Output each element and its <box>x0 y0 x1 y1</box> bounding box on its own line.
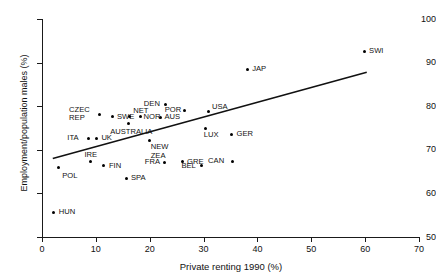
data-point-usa <box>207 110 210 113</box>
y-tick-label-90: 90 <box>402 58 436 67</box>
data-point-australia <box>127 122 130 125</box>
data-point-can <box>231 160 234 163</box>
y-tick-label-60: 60 <box>402 189 436 198</box>
data-point-hun <box>52 211 55 214</box>
plot-area: 5060708090100010203040506070 POLHUNITACZ… <box>0 0 436 279</box>
data-point-fin <box>102 164 105 167</box>
point-label-ire: IRE <box>84 151 97 159</box>
data-point-pol <box>57 166 60 169</box>
data-point-por <box>183 109 186 112</box>
y-tick-80 <box>37 106 42 107</box>
x-axis-line <box>42 237 419 238</box>
data-point-ita <box>87 137 90 140</box>
point-label-den: DEN <box>144 100 160 108</box>
point-label-fin: FIN <box>109 162 121 170</box>
scatter-chart: 5060708090100010203040506070 POLHUNITACZ… <box>0 0 436 279</box>
x-tick-label-20: 20 <box>135 245 165 254</box>
point-label-fra: FRA <box>145 158 160 166</box>
x-tick-20 <box>150 237 151 242</box>
point-label-ita: ITA <box>67 134 78 142</box>
data-point-jap <box>246 68 249 71</box>
point-label-jap: JAP <box>252 65 266 73</box>
data-point-czec-rep <box>98 113 101 116</box>
point-label-czec-rep: CZEC REP <box>69 106 90 123</box>
point-label-lux: LUX <box>204 131 219 139</box>
x-tick-70 <box>419 237 420 242</box>
x-tick-0 <box>42 237 43 242</box>
point-label-bel: BEL <box>181 162 195 170</box>
point-label-swe: SWE <box>117 113 134 121</box>
x-tick-label-60: 60 <box>350 245 380 254</box>
point-label-nor: NOR <box>144 113 161 121</box>
data-point-uk <box>95 137 98 140</box>
point-label-swi: SWI <box>369 47 383 55</box>
point-label-spa: SPA <box>131 174 146 182</box>
y-tick-70 <box>37 150 42 151</box>
data-point-net <box>128 115 131 118</box>
data-point-swe <box>111 115 114 118</box>
point-label-usa: USA <box>212 103 228 111</box>
x-tick-label-40: 40 <box>242 245 272 254</box>
data-point-fra <box>163 161 166 164</box>
data-point-ire <box>89 160 92 163</box>
x-tick-30 <box>204 237 205 242</box>
point-label-can: CAN <box>208 157 224 165</box>
y-tick-90 <box>37 63 42 64</box>
data-point-aus <box>159 116 162 119</box>
x-tick-60 <box>365 237 366 242</box>
data-point-swi <box>363 50 366 53</box>
y-tick-label-70: 70 <box>402 145 436 154</box>
y-axis-line <box>42 19 43 238</box>
x-tick-40 <box>257 237 258 242</box>
x-tick-label-10: 10 <box>81 245 111 254</box>
data-point-spa <box>125 177 128 180</box>
point-label-ger: GER <box>237 130 253 138</box>
point-label-australia: AUSTRALIA <box>110 128 152 136</box>
x-tick-label-70: 70 <box>404 245 434 254</box>
x-tick-label-50: 50 <box>296 245 326 254</box>
point-label-hun: HUN <box>59 208 75 216</box>
y-tick-60 <box>37 193 42 194</box>
x-tick-label-30: 30 <box>189 245 219 254</box>
y-tick-100 <box>37 19 42 20</box>
point-label-pol: POL <box>62 172 77 180</box>
point-label-por: POR <box>165 106 181 114</box>
data-point-nor <box>139 115 142 118</box>
y-axis-title: Employment/population males (%) <box>19 23 29 223</box>
y-tick-label-80: 80 <box>402 102 436 111</box>
x-tick-10 <box>96 237 97 242</box>
x-axis-title: Private renting 1990 (%) <box>118 261 344 272</box>
x-tick-label-0: 0 <box>27 245 57 254</box>
x-tick-50 <box>311 237 312 242</box>
data-point-ger <box>230 133 233 136</box>
y-tick-label-100: 100 <box>402 15 436 24</box>
data-point-bel <box>200 164 203 167</box>
